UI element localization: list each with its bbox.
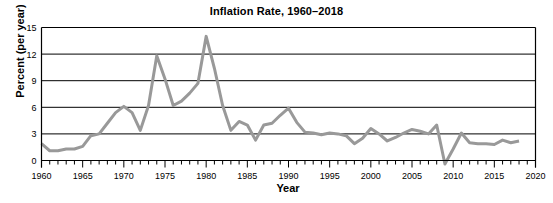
y-tick-label: 0: [31, 156, 36, 166]
x-tick-labels-group: 1960196519701975198019851990199520002005…: [31, 171, 545, 181]
x-tick-label: 2020: [525, 171, 545, 181]
x-tick-label: 2015: [484, 171, 504, 181]
plot-area: 03691215 1960196519701975198019851990199…: [0, 0, 553, 203]
x-tick-label: 1990: [278, 171, 298, 181]
inflation-rate-line: [42, 36, 520, 164]
y-tick-label: 15: [26, 23, 36, 33]
y-tick-labels-group: 03691215: [26, 23, 36, 166]
y-tick-label: 3: [31, 129, 36, 139]
x-tick-label: 1965: [73, 171, 93, 181]
x-tick-label: 1985: [237, 171, 257, 181]
x-tick-label: 2000: [361, 171, 381, 181]
x-tick-label: 2010: [443, 171, 463, 181]
x-tick-label: 1970: [114, 171, 134, 181]
x-tick-label: 1980: [196, 171, 216, 181]
x-tick-label: 2005: [402, 171, 422, 181]
x-tick-label: 1995: [320, 171, 340, 181]
y-tick-label: 6: [31, 103, 36, 113]
y-tick-label: 9: [31, 76, 36, 86]
inflation-rate-chart-figure: Inflation Rate, 1960–2018 Percent (per y…: [0, 0, 553, 203]
axis-frame: [42, 28, 536, 168]
gridlines-group: [42, 28, 536, 161]
y-tick-label: 12: [26, 50, 36, 60]
x-tick-label: 1960: [31, 171, 51, 181]
x-tick-label: 1975: [155, 171, 175, 181]
